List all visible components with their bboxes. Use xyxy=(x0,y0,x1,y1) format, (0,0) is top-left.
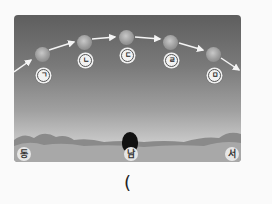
answer-blank: ( xyxy=(124,172,131,193)
direction-west: 서 xyxy=(225,147,239,161)
sun-path-photo: ㄱ ㄴ ㄷ ㄹ ㅁ 동 남 서 xyxy=(14,15,241,162)
position-label: ㄱ xyxy=(37,69,50,82)
direction-east: 동 xyxy=(17,147,31,161)
sun-icon xyxy=(163,35,178,50)
position-label: ㄹ xyxy=(165,54,178,67)
position-label: ㅁ xyxy=(208,69,221,82)
position-label: ㄴ xyxy=(79,54,92,67)
sun-icon xyxy=(206,47,221,62)
sun-icon xyxy=(77,35,92,50)
sun-icon xyxy=(119,30,134,45)
direction-south: 남 xyxy=(124,147,138,161)
sun-icon xyxy=(35,47,50,62)
position-label: ㄷ xyxy=(121,49,134,62)
